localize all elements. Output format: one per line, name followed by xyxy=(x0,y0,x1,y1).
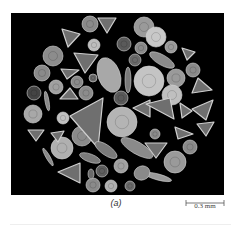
centric-diatom xyxy=(96,165,108,177)
centric-diatom xyxy=(167,69,185,87)
centric-diatom xyxy=(88,39,100,51)
centric-diatom xyxy=(86,178,100,192)
figure-panel-a: (a) 0.3 mm xyxy=(0,0,241,227)
centric-diatom xyxy=(57,112,69,124)
centric-diatom xyxy=(105,180,117,192)
centric-diatom xyxy=(146,27,166,47)
centric-diatom xyxy=(117,37,131,51)
centric-diatom xyxy=(114,91,128,105)
centric-diatom xyxy=(27,86,41,100)
centric-diatom xyxy=(107,107,137,137)
centric-diatom xyxy=(82,16,98,32)
centric-diatom xyxy=(79,86,93,100)
centric-diatom xyxy=(24,105,42,123)
pennate-diatom xyxy=(88,169,94,179)
panel-label: (a) xyxy=(104,198,128,208)
scale-bar-label: 0.3 mm xyxy=(186,202,224,210)
centric-diatom xyxy=(51,137,73,159)
centric-diatom xyxy=(129,54,141,66)
centric-diatom xyxy=(165,41,177,53)
centric-diatom xyxy=(89,74,97,82)
centric-diatom xyxy=(71,76,83,88)
centric-diatom xyxy=(164,151,186,173)
centric-diatom xyxy=(150,129,160,139)
centric-diatom xyxy=(186,63,200,77)
centric-diatom xyxy=(135,42,147,54)
centric-diatom xyxy=(43,46,63,66)
micrograph xyxy=(0,0,241,227)
centric-diatom xyxy=(183,140,197,154)
centric-diatom xyxy=(125,181,135,191)
centric-diatom xyxy=(114,159,128,173)
centric-diatom xyxy=(134,66,164,96)
centric-diatom xyxy=(49,80,63,94)
centric-diatom xyxy=(34,65,50,81)
pennate-diatom xyxy=(125,67,131,93)
divider xyxy=(10,224,231,225)
